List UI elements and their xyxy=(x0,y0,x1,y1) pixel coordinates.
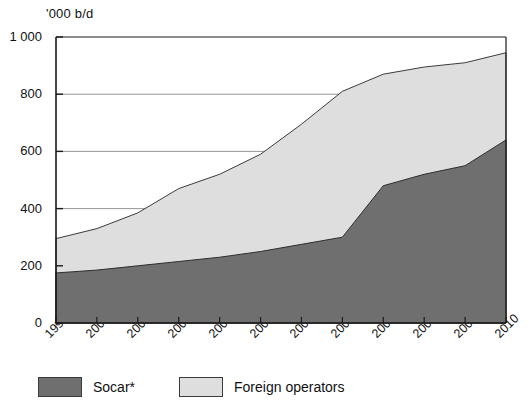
chart-container: '000 b/d 02004006008001 000 199920002001… xyxy=(0,0,529,412)
legend-item-foreign-operators: Foreign operators xyxy=(179,377,345,397)
legend-swatch-foreign-operators xyxy=(179,377,223,397)
legend-label-foreign-operators: Foreign operators xyxy=(234,379,345,395)
area-chart-plot xyxy=(0,0,529,412)
legend-item-socar: Socar* xyxy=(38,377,135,397)
legend-label-socar: Socar* xyxy=(93,379,135,395)
legend-swatch-socar xyxy=(38,377,82,397)
chart-legend: Socar* Foreign operators xyxy=(38,377,345,397)
